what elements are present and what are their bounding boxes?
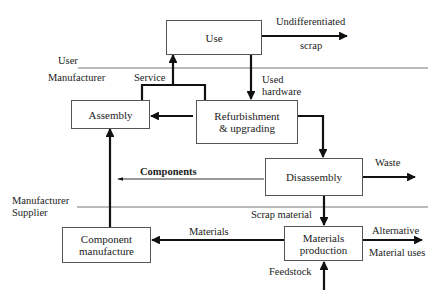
flow-label-scrap-material: Scrap material [251, 209, 312, 221]
node-disassembly-label: Disassembly [286, 171, 342, 183]
flow-label-alternative: Alternative [372, 225, 419, 237]
node-use-label: Use [205, 32, 222, 44]
arrow-refurbishment-to-disassembly [297, 116, 323, 157]
flow-label-hardware: hardware [262, 86, 301, 98]
flow-label-components: Components [140, 166, 197, 178]
flow-label-waste: Waste [375, 157, 400, 169]
node-component-manufacture: Component manufacture [62, 227, 151, 263]
flow-label-feedstock: Feedstock [269, 266, 312, 278]
flow-label-materials: Materials [189, 226, 229, 238]
flow-label-scrap: scrap [300, 40, 322, 52]
node-refurbishment-label-2: & upgrading [219, 122, 275, 134]
node-refurbishment-label-1: Refurbishment [214, 110, 279, 122]
node-assembly: Assembly [71, 100, 150, 129]
zone-label-supplier: Supplier [12, 207, 48, 219]
node-refurbishment: Refurbishment & upgrading [196, 100, 298, 144]
zone-label-manufacturer-top: Manufacturer [48, 72, 105, 84]
node-component-manufacture-label-2: manufacture [79, 245, 134, 257]
node-materials-production-label-1: Materials [303, 232, 345, 244]
zone-label-user: User [58, 55, 78, 67]
node-use: Use [166, 20, 262, 55]
flow-label-used: Used [262, 74, 284, 86]
flow-label-material-uses: Material uses [369, 247, 425, 259]
service-connector [142, 85, 205, 100]
flow-label-service: Service [134, 72, 166, 84]
node-component-manufacture-label-1: Component [81, 233, 132, 245]
flow-label-undifferentiated: Undifferentiated [276, 16, 345, 28]
node-materials-production-label-2: production [300, 244, 348, 256]
zone-label-manufacturer-bottom: Manufacturer [12, 195, 69, 207]
node-assembly-label: Assembly [89, 109, 133, 121]
node-materials-production: Materials production [284, 226, 363, 261]
node-disassembly: Disassembly [265, 158, 363, 196]
